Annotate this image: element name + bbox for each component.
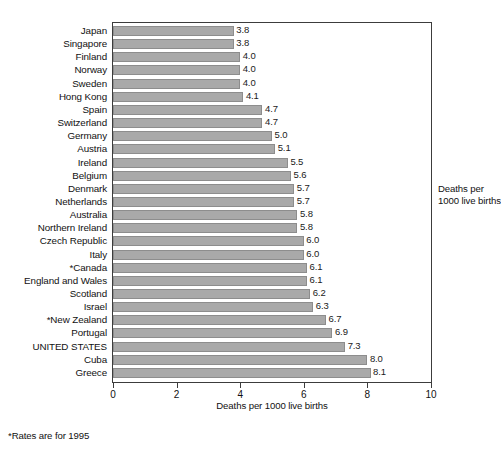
bar-row: 4.1 — [113, 92, 431, 102]
category-label: *Canada — [70, 262, 107, 274]
category-label: Finland — [76, 51, 107, 63]
bar — [113, 26, 234, 36]
chart-side-annotation: Deaths per 1000 live births — [438, 183, 501, 207]
chart-side-annotation-line1: Deaths per — [438, 183, 501, 195]
bar-row: 6.7 — [113, 315, 431, 325]
bar-row: 4.0 — [113, 65, 431, 75]
bar-value-label: 5.8 — [300, 208, 313, 219]
category-label: Belgium — [72, 170, 107, 182]
bar — [113, 79, 240, 89]
bar-row: 4.7 — [113, 105, 431, 115]
x-axis-tick — [240, 383, 241, 388]
bar — [113, 355, 367, 365]
bar — [113, 158, 288, 168]
bar — [113, 276, 307, 286]
bar-value-label: 5.0 — [275, 129, 288, 140]
bar — [113, 131, 272, 141]
x-axis-title: Deaths per 1000 live births — [112, 400, 432, 411]
x-axis-tick — [304, 383, 305, 388]
bar — [113, 210, 297, 220]
bar-value-label: 6.2 — [313, 287, 326, 298]
category-label: Denmark — [68, 183, 107, 195]
bar — [113, 263, 307, 273]
category-label: Japan — [81, 25, 107, 37]
bar-row: 5.5 — [113, 158, 431, 168]
bar — [113, 342, 345, 352]
bar — [113, 144, 275, 154]
category-label: England and Wales — [24, 275, 107, 287]
category-label: Italy — [90, 249, 107, 261]
category-label: Czech Republic — [40, 235, 107, 247]
bar — [113, 171, 291, 181]
bar-row: 6.1 — [113, 263, 431, 273]
bar — [113, 105, 262, 115]
x-axis-tick — [113, 383, 114, 388]
bar-row: 3.8 — [113, 26, 431, 36]
bar-value-label: 5.8 — [300, 221, 313, 232]
bar-row: 7.3 — [113, 342, 431, 352]
category-label: Norway — [74, 64, 107, 76]
y-axis-category-labels: JapanSingaporeFinlandNorwaySwedenHong Ko… — [0, 23, 107, 382]
bar-row: 5.8 — [113, 223, 431, 233]
bar-row: 5.6 — [113, 171, 431, 181]
bar-value-label: 6.3 — [316, 300, 329, 311]
bar — [113, 184, 294, 194]
category-label: Israel — [84, 301, 107, 313]
bar — [113, 250, 304, 260]
bar-row: 4.7 — [113, 118, 431, 128]
bar-value-label: 6.0 — [306, 234, 319, 245]
bar — [113, 223, 297, 233]
x-axis-tick — [367, 383, 368, 388]
bar — [113, 52, 240, 62]
bar — [113, 315, 326, 325]
bar — [113, 236, 304, 246]
bar-value-label: 5.7 — [297, 182, 310, 193]
x-axis-tick — [431, 383, 432, 388]
bar-value-label: 6.1 — [309, 274, 322, 285]
bar — [113, 118, 262, 128]
bar-value-label: 6.9 — [335, 326, 348, 337]
chart-footnote: *Rates are for 1995 — [8, 430, 89, 442]
category-label: Switzerland — [57, 117, 107, 129]
category-label: Germany — [67, 130, 107, 142]
bar-row: 6.1 — [113, 276, 431, 286]
bar-value-label: 4.1 — [246, 90, 259, 101]
chart-side-annotation-line2: 1000 live births — [438, 195, 501, 207]
bar — [113, 39, 234, 49]
category-label: Cuba — [84, 354, 107, 366]
bar-value-label: 3.8 — [236, 24, 249, 35]
bar-value-label: 5.6 — [294, 169, 307, 180]
bar-row: 8.1 — [113, 368, 431, 378]
bar-row: 6.9 — [113, 328, 431, 338]
bar-row: 6.2 — [113, 289, 431, 299]
bar-row: 4.0 — [113, 79, 431, 89]
bar-value-label: 4.0 — [243, 50, 256, 61]
bar-row: 6.0 — [113, 250, 431, 260]
bar-value-label: 8.0 — [370, 353, 383, 364]
bar-row: 5.8 — [113, 210, 431, 220]
category-label: Scotland — [70, 288, 107, 300]
bar-value-label: 5.7 — [297, 195, 310, 206]
bar — [113, 65, 240, 75]
category-label: Australia — [70, 209, 107, 221]
bar-row: 8.0 — [113, 355, 431, 365]
bar — [113, 289, 310, 299]
bar-value-label: 4.0 — [243, 77, 256, 88]
category-label: *New Zealand — [47, 314, 107, 326]
bar — [113, 368, 371, 378]
bar — [113, 328, 332, 338]
bar-value-label: 5.1 — [278, 142, 291, 153]
bar-value-label: 4.0 — [243, 63, 256, 74]
category-label: Portugal — [71, 327, 107, 339]
bar-value-label: 6.7 — [329, 313, 342, 324]
bar-value-label: 8.1 — [373, 366, 386, 377]
category-label: Austria — [77, 143, 107, 155]
bar-row: 5.1 — [113, 144, 431, 154]
bar-value-label: 3.8 — [236, 37, 249, 48]
category-label: Sweden — [72, 78, 107, 90]
bar-value-label: 6.1 — [309, 261, 322, 272]
bar — [113, 302, 313, 312]
bar-row: 5.7 — [113, 184, 431, 194]
bar-row: 4.0 — [113, 52, 431, 62]
bar-row: 6.0 — [113, 236, 431, 246]
